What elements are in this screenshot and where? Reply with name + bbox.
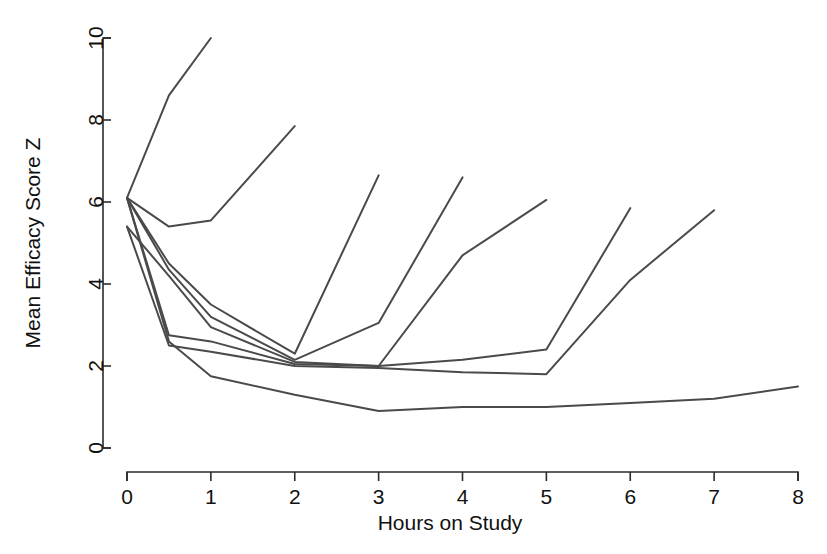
x-tick-label: 1: [205, 485, 217, 508]
series-line: [127, 198, 798, 411]
series-line: [127, 38, 211, 198]
y-tick-label: 8: [84, 114, 107, 126]
x-tick-label: 2: [289, 485, 301, 508]
x-tick-label: 8: [792, 485, 804, 508]
series-line: [127, 198, 630, 366]
y-axis-title: Mean Efficacy Score Z: [21, 137, 44, 348]
y-tick-label: 0: [84, 442, 107, 454]
line-chart: 0246810 012345678 Hours on Study Mean Ef…: [0, 0, 827, 554]
x-axis-ticks: [127, 472, 798, 481]
y-axis-ticks: [103, 38, 111, 448]
series-line: [127, 210, 714, 374]
y-tick-label: 6: [84, 196, 107, 208]
chart-container: 0246810 012345678 Hours on Study Mean Ef…: [0, 0, 827, 554]
x-tick-label: 3: [373, 485, 385, 508]
x-axis-title: Hours on Study: [378, 511, 523, 534]
x-tick-label: 0: [121, 485, 133, 508]
y-axis-line: [103, 38, 111, 448]
series-line: [127, 126, 295, 226]
x-tick-label: 7: [708, 485, 720, 508]
x-axis-tick-labels: 012345678: [121, 485, 804, 508]
series-lines: [127, 38, 798, 411]
series-line: [127, 177, 463, 359]
x-tick-label: 5: [541, 485, 553, 508]
y-tick-label: 10: [84, 26, 107, 49]
x-tick-label: 6: [624, 485, 636, 508]
y-tick-label: 4: [84, 278, 107, 290]
x-tick-label: 4: [457, 485, 469, 508]
y-tick-label: 2: [84, 360, 107, 372]
